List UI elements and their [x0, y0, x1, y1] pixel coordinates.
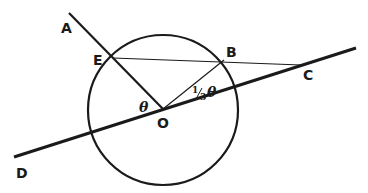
line-dc: [14, 48, 356, 157]
label-d: D: [16, 165, 28, 181]
line-ec: [113, 58, 301, 65]
label-o: O: [157, 115, 169, 131]
angle-third-numerator: 1: [192, 85, 198, 95]
label-c: C: [303, 67, 313, 83]
line-ao: [69, 13, 163, 109]
angle-third-denominator: 3: [200, 92, 206, 102]
diagram-svg: A E B C O D θ 1 3 θ: [0, 0, 368, 193]
geometry-diagram: A E B C O D θ 1 3 θ: [0, 0, 368, 193]
label-e: E: [93, 52, 103, 68]
angle-theta: θ: [139, 99, 149, 115]
label-a: A: [61, 20, 72, 36]
angle-third-theta: θ: [207, 84, 217, 100]
label-b: B: [226, 44, 237, 60]
